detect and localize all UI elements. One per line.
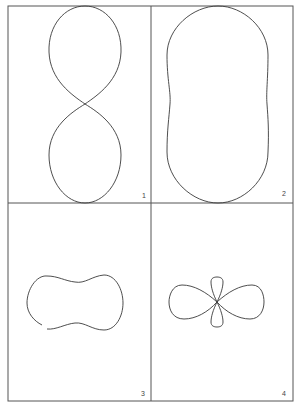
panel-2-label: 2 <box>282 190 286 197</box>
figure-canvas <box>0 0 300 408</box>
panel-4-curve <box>169 277 264 327</box>
panel-1-curve <box>49 6 121 203</box>
panel-4-label: 4 <box>282 390 286 397</box>
panel-1-label: 1 <box>142 192 146 199</box>
panel-3-curve <box>27 275 123 330</box>
panel-2-curve <box>167 6 268 203</box>
polar-pattern-figure: 1 2 3 4 <box>0 0 300 408</box>
panel-3-label: 3 <box>141 390 145 397</box>
